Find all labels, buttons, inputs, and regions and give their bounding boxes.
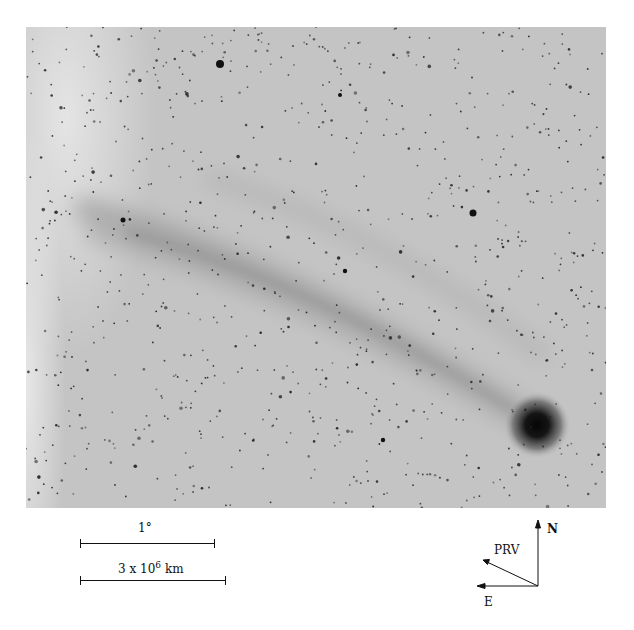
- star-field: [26, 27, 606, 508]
- east-arrowhead-icon: [477, 584, 485, 589]
- scale-label-km: 3 x 106 km: [118, 560, 184, 576]
- comet-photograph: [26, 27, 606, 508]
- north-label: N: [547, 522, 558, 536]
- north-arrowhead-icon: [536, 520, 541, 528]
- comet-head: [503, 391, 571, 459]
- prv-arrow: [487, 562, 538, 586]
- east-label: E: [484, 595, 493, 609]
- orientation-compass: N PRV E: [460, 515, 580, 615]
- scale-label-degree: 1°: [138, 521, 152, 535]
- prv-label: PRV: [494, 543, 519, 557]
- prv-arrowhead-icon: [483, 560, 490, 565]
